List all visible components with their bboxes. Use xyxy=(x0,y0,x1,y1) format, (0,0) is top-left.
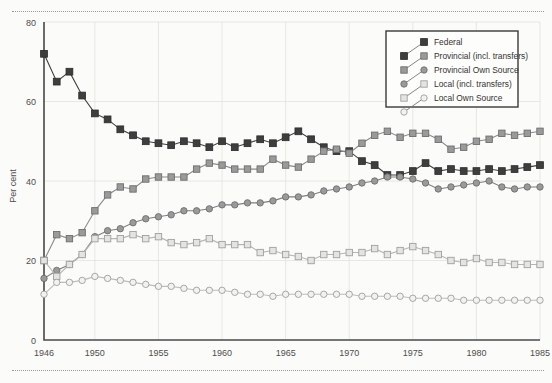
x-tick-label: 1985 xyxy=(530,348,550,358)
x-tick-label: 1965 xyxy=(276,348,296,358)
y-tick-label: 0 xyxy=(31,336,36,346)
x-tick-label: 1946 xyxy=(34,348,54,358)
series-local-incl-transfers xyxy=(41,231,543,279)
legend-label: Federal xyxy=(434,37,463,47)
line-chart: 020406080 194619501955196019651970197519… xyxy=(0,0,552,383)
x-tick-label: 1955 xyxy=(148,348,168,358)
series-provincial-incl-transfers xyxy=(41,128,543,264)
legend-label: Provincial (incl. transfers) xyxy=(434,51,528,61)
y-axis-tick-labels: 020406080 xyxy=(26,18,36,346)
series-markers xyxy=(41,128,543,264)
y-axis-title: Per cent xyxy=(8,169,18,203)
page-top-rule xyxy=(12,11,544,12)
series-local-own-source xyxy=(41,273,543,303)
x-tick-label: 1970 xyxy=(339,348,359,358)
legend-label: Provincial Own Source xyxy=(434,65,519,75)
y-tick-label: 20 xyxy=(26,256,36,266)
legend-label: Local (incl. transfers) xyxy=(434,79,512,89)
x-tick-label: 1980 xyxy=(466,348,486,358)
x-tick-label: 1960 xyxy=(212,348,232,358)
x-tick-label: 1975 xyxy=(403,348,423,358)
y-tick-label: 40 xyxy=(26,177,36,187)
y-tick-label: 60 xyxy=(26,97,36,107)
x-tick-label: 1950 xyxy=(85,348,105,358)
chart-legend: FederalProvincial (incl. transfers)Provi… xyxy=(386,31,528,115)
y-tick-label: 80 xyxy=(26,18,36,28)
series-markers xyxy=(41,273,543,303)
x-axis-tick-labels: 194619501955196019651970197519801985 xyxy=(34,348,550,358)
figure-container: 020406080 194619501955196019651970197519… xyxy=(0,0,552,383)
legend-label: Local Own Source xyxy=(434,93,503,103)
page-bottom-rule xyxy=(12,370,544,371)
